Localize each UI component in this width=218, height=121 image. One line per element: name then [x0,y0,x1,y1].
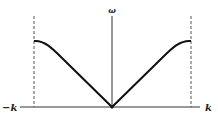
minus-k-label: −k [2,102,17,113]
dispersion-diagram: ω −k k [0,0,218,121]
origin-point [111,106,114,109]
omega-label: ω [108,5,116,15]
k-label: k [205,102,212,113]
